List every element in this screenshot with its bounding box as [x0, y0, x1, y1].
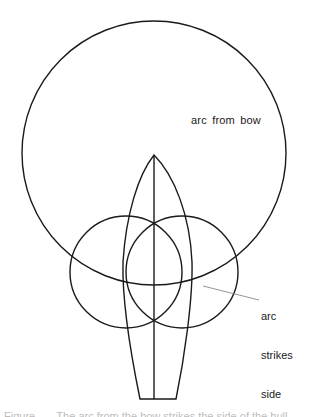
figure-caption: Figure . . . The arc from the bow strike… [4, 410, 314, 417]
arc-strikes-side-label: arc strikes side [261, 284, 293, 414]
arc-strikes-side-line-3: side [261, 388, 293, 401]
arc-strikes-side-line-2: strikes [261, 349, 293, 362]
arc-strikes-side-line-1: arc [261, 310, 293, 323]
arc-from-bow-label: arc from bow [191, 114, 261, 127]
